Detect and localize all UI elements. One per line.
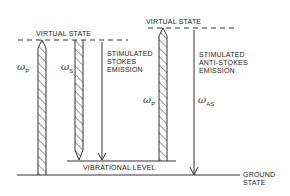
pump-arrow-right xyxy=(159,28,167,161)
omega-as-symbol: ωAS xyxy=(198,94,214,107)
virtual-state-label-right: VIRTUAL STATE xyxy=(146,18,201,26)
vibrational-level-label: VIBRATIONAL LEVEL xyxy=(83,164,156,172)
ground-state-label: GROUND STATE xyxy=(243,171,275,187)
stokes-emission-label: STIMULATED STOKES EMISSION xyxy=(107,50,153,74)
antistokes-emission-label: STIMULATED ANTI-STOKES EMISSION xyxy=(199,51,248,75)
omega-p-right-symbol: ωP xyxy=(143,94,155,107)
pump-arrow-left xyxy=(38,40,46,175)
virtual-state-label-left: VIRTUAL STATE xyxy=(36,30,91,38)
omega-s-symbol: ωS xyxy=(61,61,73,74)
stokes-arrow xyxy=(75,40,83,160)
omega-p-left-symbol: ωP xyxy=(17,61,29,74)
